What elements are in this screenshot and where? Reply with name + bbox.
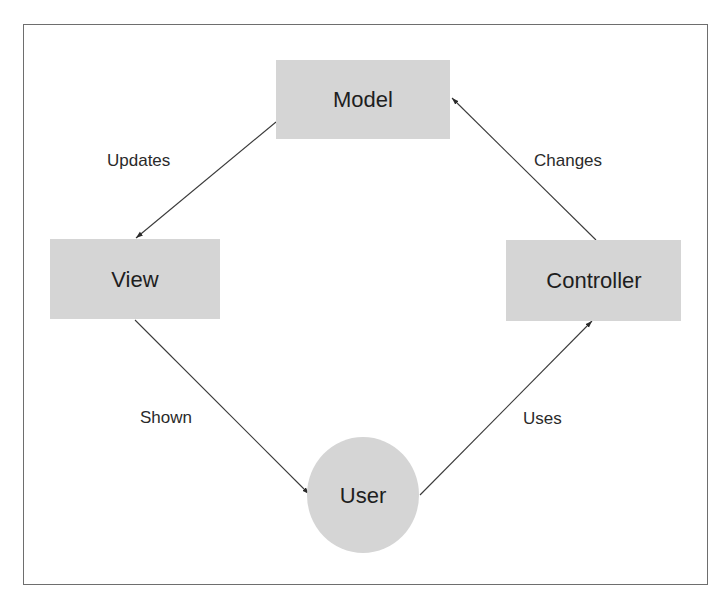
edge-updates-arrow <box>136 122 276 238</box>
edge-uses-arrow <box>420 321 592 495</box>
view-label: View <box>111 267 158 292</box>
node-view: View <box>50 239 220 319</box>
edge-label-updates: Updates <box>107 151 170 170</box>
mvc-diagram: Model View Controller User Updates Shown… <box>0 0 728 601</box>
edge-label-uses: Uses <box>523 409 562 428</box>
controller-label: Controller <box>546 268 641 293</box>
node-model: Model <box>276 60 450 139</box>
node-controller: Controller <box>506 240 681 321</box>
node-user: User <box>307 437 419 553</box>
edge-label-shown: Shown <box>140 408 192 427</box>
nodes: Model View Controller User <box>50 60 681 553</box>
user-label: User <box>340 483 386 508</box>
edge-label-changes: Changes <box>534 151 602 170</box>
edge-shown-arrow <box>135 320 309 494</box>
model-label: Model <box>333 87 393 112</box>
